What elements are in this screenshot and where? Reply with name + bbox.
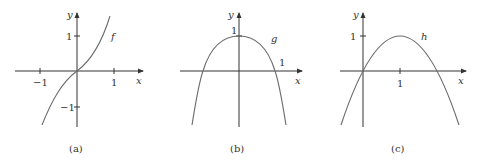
y-tick-label-1: 1: [350, 31, 356, 42]
figure: y x −1 1 1 −1 f (a) y x 1 1 g (b) y x 1 …: [0, 0, 482, 161]
caption-b: (b): [230, 143, 244, 154]
y-axis-label: y: [227, 9, 234, 20]
x-axis-label: x: [136, 75, 142, 86]
x-tick-label-1: 1: [279, 57, 285, 68]
x-axis-label: x: [458, 75, 464, 86]
curve-label-f: f: [110, 31, 117, 42]
panel-c: y x 1 1 h (c): [340, 9, 466, 154]
panel-b: y x 1 1 g (b): [180, 9, 302, 154]
curve-label-g: g: [271, 33, 277, 44]
curve-label-h: h: [421, 31, 427, 42]
y-tick-label-neg1: −1: [60, 102, 75, 113]
x-tick-label-1: 1: [397, 78, 403, 89]
x-tick-label-neg1: −1: [33, 77, 48, 88]
caption-a: (a): [69, 143, 83, 154]
y-tick-label-1: 1: [231, 25, 237, 36]
caption-c: (c): [391, 143, 405, 154]
x-axis-label: x: [295, 75, 301, 86]
x-tick-label-1: 1: [111, 77, 117, 88]
panel-a: y x −1 1 1 −1 f (a): [15, 9, 143, 154]
y-tick-label-1: 1: [66, 31, 72, 42]
y-axis-label: y: [66, 9, 73, 20]
y-axis-label: y: [352, 9, 359, 20]
